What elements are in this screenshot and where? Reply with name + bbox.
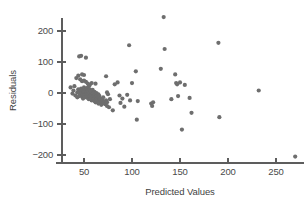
data-point (217, 115, 221, 119)
data-point (134, 69, 138, 73)
data-point (163, 47, 167, 51)
data-point (178, 80, 182, 84)
data-point (107, 105, 111, 109)
data-point (106, 92, 110, 96)
data-point (79, 54, 83, 58)
data-point (108, 97, 112, 101)
data-point (127, 43, 131, 47)
data-point (176, 94, 180, 98)
data-point (180, 127, 184, 131)
data-point (130, 81, 134, 85)
y-axis-tick-label: −200 (32, 149, 53, 160)
data-point (111, 108, 115, 112)
data-point (68, 85, 72, 89)
data-point (136, 99, 140, 103)
y-axis-tick-label: 100 (38, 56, 53, 67)
data-point (257, 88, 261, 92)
data-point (151, 100, 155, 104)
residual-plot: 501001502002502001000−100−200Predicted V… (0, 0, 308, 204)
data-point (120, 96, 124, 100)
data-point (173, 72, 177, 76)
data-point (118, 101, 122, 105)
y-axis-tick-label: 0 (48, 87, 53, 98)
data-point (72, 84, 76, 88)
y-axis-tick-label: −100 (32, 118, 53, 129)
data-point (105, 100, 109, 104)
data-point (125, 93, 129, 97)
x-axis-tick-label: 200 (220, 166, 235, 177)
data-point (183, 83, 187, 87)
data-point (169, 97, 173, 101)
data-point-group (68, 15, 297, 159)
data-point (76, 74, 80, 78)
y-axis-tick-label: 200 (38, 25, 53, 36)
data-point (159, 67, 163, 71)
data-point (93, 82, 97, 86)
data-point (135, 118, 139, 122)
x-axis-title: Predicted Values (145, 186, 215, 197)
data-point (117, 93, 121, 97)
data-point (86, 82, 90, 86)
y-axis-title: Residuals (7, 70, 18, 111)
data-point (216, 41, 220, 45)
data-point (122, 105, 126, 109)
data-point (162, 15, 166, 19)
scatter-chart-canvas: 501001502002502001000−100−200Predicted V… (0, 0, 308, 204)
x-axis-tick-label: 150 (172, 166, 187, 177)
data-point (189, 111, 193, 115)
data-point (293, 154, 297, 158)
x-axis-tick-label: 50 (79, 166, 89, 177)
data-point (128, 98, 132, 102)
x-axis-tick-label: 250 (268, 166, 283, 177)
data-point (104, 74, 108, 78)
x-axis-tick-label: 100 (124, 166, 139, 177)
data-point (116, 80, 120, 84)
data-point (188, 96, 192, 100)
data-point (80, 72, 84, 76)
data-point (71, 88, 75, 92)
data-point (101, 95, 105, 99)
data-point (84, 56, 88, 60)
data-point (150, 104, 154, 108)
